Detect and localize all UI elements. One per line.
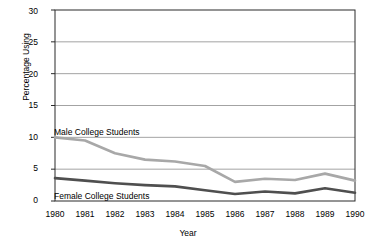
x-tick-label-1981: 1981: [68, 210, 102, 219]
y-tick-label-25: 25: [16, 38, 38, 47]
x-tick-label-1982: 1982: [98, 210, 132, 219]
x-tick-label-1985: 1985: [188, 210, 222, 219]
y-tick-label-10: 10: [16, 133, 38, 142]
x-tick-label-1988: 1988: [278, 210, 312, 219]
series-label-female: Female College Students: [54, 192, 149, 201]
y-tick-label-15: 15: [16, 101, 38, 110]
gridlines: [55, 42, 355, 169]
x-tick-label-1980: 1980: [38, 210, 72, 219]
y-tick-label-20: 20: [16, 70, 38, 79]
chart-container: Percentage Using Year 30 25 20 15 10 5 0…: [0, 0, 376, 247]
series-line-male: [55, 137, 355, 182]
x-tick-label-1986: 1986: [218, 210, 252, 219]
series-lines: [55, 137, 355, 194]
x-tick-label-1984: 1984: [158, 210, 192, 219]
x-tick-label-1990: 1990: [338, 210, 372, 219]
y-tick-label-5: 5: [16, 164, 38, 173]
y-tick-label-30: 30: [16, 7, 38, 16]
series-label-male: Male College Students: [54, 128, 140, 137]
x-tick-label-1989: 1989: [308, 210, 342, 219]
y-tick-label-0: 0: [16, 196, 38, 205]
y-axis-ticks: [51, 10, 55, 201]
x-tick-label-1983: 1983: [128, 210, 162, 219]
x-axis-title: Year: [0, 228, 376, 238]
x-tick-label-1987: 1987: [248, 210, 282, 219]
